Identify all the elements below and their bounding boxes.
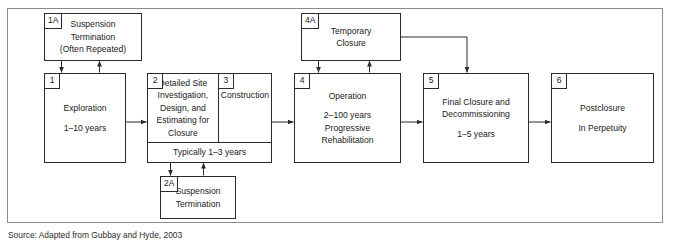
- node-2-tag: 2: [147, 73, 163, 89]
- node-4-content: Operation 2–100 years Progressive Rehabi…: [295, 90, 400, 147]
- node-1-content: Exploration 1–10 years: [45, 102, 125, 134]
- node-5-content: Final Closure and Decommissioning 1–5 ye…: [424, 96, 528, 140]
- node-4-duration: 2–100 years Progressive Rehabilitation: [318, 109, 376, 146]
- node-1a-tag: 1A: [44, 13, 62, 29]
- node-1-tag: 1: [44, 73, 60, 89]
- node-1-exploration[interactable]: 1 Exploration 1–10 years: [44, 73, 126, 163]
- node-6-label: Postclosure: [577, 102, 628, 114]
- node-group-cells: 2 Detailed Site Investigation, Design, a…: [148, 74, 271, 142]
- node-5-label: Final Closure and Decommissioning: [439, 96, 513, 121]
- node-2-detailed-site-investigation[interactable]: 2 Detailed Site Investigation, Design, a…: [148, 74, 219, 142]
- node-4a-label: Temporary Closure: [328, 25, 375, 50]
- node-2a-suspension-termination[interactable]: 2A Suspension Termination: [160, 176, 236, 219]
- node-5-tag: 5: [423, 73, 439, 89]
- figure-flowchart: 1A Suspension Termination (Often Repeate…: [0, 0, 673, 240]
- node-4-tag: 4: [294, 73, 310, 89]
- node-4a-tag: 4A: [301, 13, 319, 29]
- node-1-label: Exploration: [61, 102, 110, 114]
- node-1a-label: Suspension Termination (Often Repeated): [57, 18, 129, 55]
- node-5-final-closure-decommissioning[interactable]: 5 Final Closure and Decommissioning 1–5 …: [423, 73, 529, 163]
- node-2a-tag: 2A: [160, 176, 178, 192]
- node-1a-suspension-termination[interactable]: 1A Suspension Termination (Often Repeate…: [44, 13, 142, 61]
- node-5-duration: 1–5 years: [454, 128, 498, 140]
- node-4-operation[interactable]: 4 Operation 2–100 years Progressive Reha…: [294, 73, 401, 163]
- node-3-construction[interactable]: 3 Construction: [219, 74, 271, 142]
- node-2-label: Detailed Site Investigation, Design, and…: [155, 77, 212, 139]
- node-6-content: Postclosure In Perpetuity: [552, 102, 653, 134]
- node-4-label: Operation: [326, 90, 370, 102]
- node-3-label: Construction: [219, 89, 271, 101]
- source-caption: Source: Adapted from Gubbay and Hyde, 20…: [8, 230, 182, 240]
- node-2-3-duration-label: Typically 1–3 years: [171, 146, 248, 158]
- node-4a-temporary-closure[interactable]: 4A Temporary Closure: [301, 13, 401, 61]
- node-1-duration: 1–10 years: [61, 122, 110, 134]
- node-2a-label: Suspension Termination: [173, 185, 224, 210]
- node-3-tag: 3: [218, 73, 234, 89]
- node-group-2-3: 2 Detailed Site Investigation, Design, a…: [147, 73, 272, 163]
- node-6-duration: In Perpetuity: [575, 122, 629, 134]
- node-6-postclosure[interactable]: 6 Postclosure In Perpetuity: [551, 73, 654, 163]
- node-2-3-duration-footer: Typically 1–3 years: [148, 142, 271, 162]
- node-6-tag: 6: [551, 73, 567, 89]
